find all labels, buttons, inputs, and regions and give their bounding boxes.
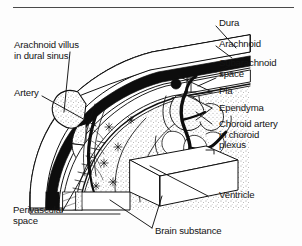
anatomy-figure: Arachnoid villus in dural sinus Artery P… — [0, 0, 302, 246]
label-arachnoid-villus: Arachnoid villus in dural sinus — [14, 40, 79, 61]
label-subarachnoid-space: Subarachnoid space — [219, 58, 276, 79]
label-ventricle: Ventricle — [219, 190, 254, 201]
label-perivascular-space: Perivascular space — [13, 205, 64, 226]
label-pia: Pia — [219, 86, 232, 97]
label-artery: Artery — [14, 88, 39, 99]
label-choroid-artery: Choroid artery in choroid plexus — [219, 119, 278, 151]
label-ependyma: Ependyma — [219, 103, 264, 114]
label-brain-substance: Brain substance — [155, 226, 222, 237]
label-arachnoid: Arachnoid — [219, 39, 261, 50]
label-dura: Dura — [219, 18, 239, 29]
